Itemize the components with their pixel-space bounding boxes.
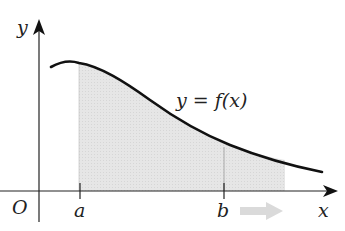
integral-diagram: y x O a b y = f(x) xyxy=(0,0,345,231)
x-axis-label: x xyxy=(318,199,329,221)
origin-label: O xyxy=(12,196,28,218)
b-label: b xyxy=(217,199,229,221)
a-label: a xyxy=(74,199,85,221)
shaded-area xyxy=(79,63,285,191)
curve-label: y = f(x) xyxy=(175,89,247,111)
y-axis-label: y xyxy=(16,16,28,38)
move-right-arrow-icon xyxy=(240,202,283,220)
